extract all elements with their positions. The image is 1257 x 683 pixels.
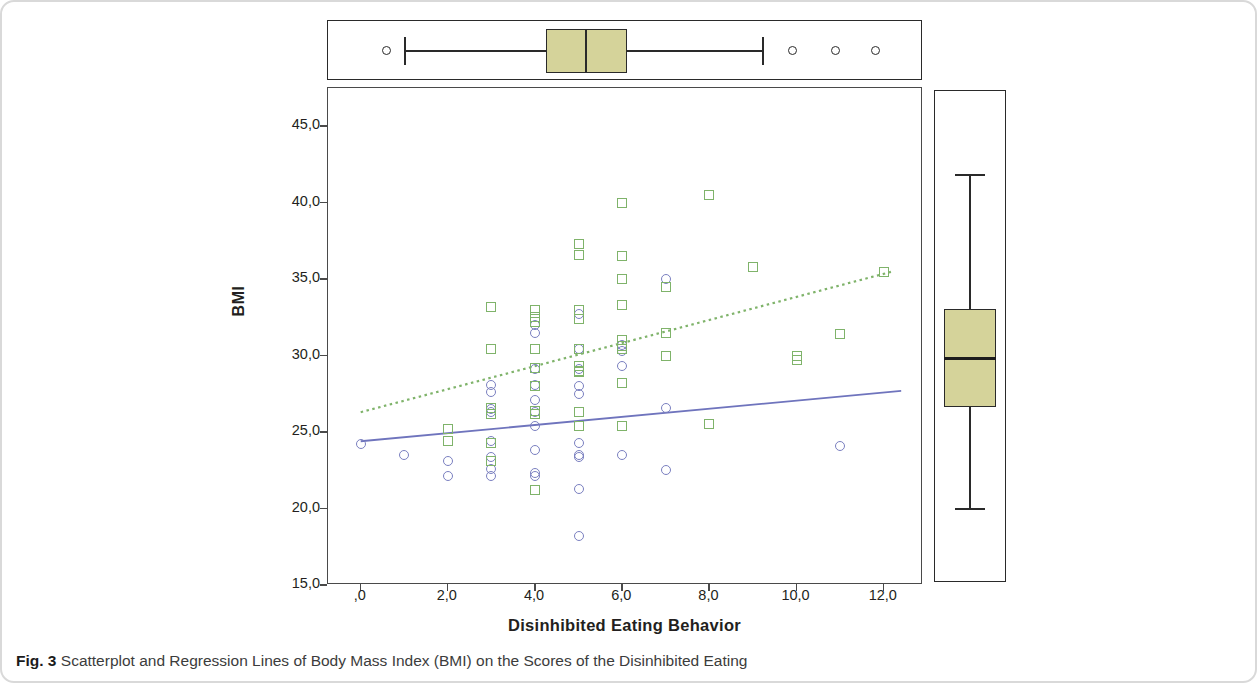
y-axis-tick-label: 15,0 (292, 575, 320, 591)
data-point (574, 239, 584, 249)
regression-line (361, 391, 902, 441)
boxplot-outlier (788, 46, 797, 55)
data-point (574, 421, 584, 431)
data-point (486, 344, 496, 354)
data-point (530, 409, 540, 419)
data-point (704, 419, 714, 429)
y-axis-tick-mark (320, 584, 327, 586)
boxplot-whisker-low (969, 407, 971, 508)
y-axis-tick-label: 40,0 (292, 193, 320, 209)
plot-inner (328, 88, 921, 583)
data-point (530, 421, 540, 431)
x-axis-tick-label: 2,0 (437, 587, 457, 603)
x-axis-tick-label: 8,0 (698, 587, 718, 603)
data-point (617, 344, 627, 354)
data-point (574, 389, 584, 399)
data-point (574, 314, 584, 324)
data-point (574, 367, 584, 377)
data-point (486, 438, 496, 448)
data-point (617, 421, 627, 431)
y-axis-tick-mark (320, 355, 327, 357)
boxplot-median-line (944, 357, 996, 360)
data-point (617, 378, 627, 388)
boxplot-whisker-high (969, 174, 971, 309)
figure-caption-text: Scatterplot and Regression Lines of Body… (56, 652, 747, 669)
x-axis-tick-labels: ,02,04,06,08,010,012,0 (327, 587, 922, 611)
data-point (835, 441, 845, 451)
data-point (574, 452, 584, 462)
data-point (661, 351, 671, 361)
y-axis-tick-label: 45,0 (292, 116, 320, 132)
scatter-plot-area: European Kiribati European Kiribati (327, 87, 922, 584)
data-point (704, 190, 714, 200)
data-point (748, 262, 758, 272)
data-point (574, 250, 584, 260)
x-axis-label: Disinhibited Eating Behavior (327, 616, 922, 635)
x-axis-tick-label: ,0 (354, 587, 366, 603)
y-axis-tick-mark (320, 508, 327, 510)
data-point (617, 251, 627, 261)
figure-panel: BMI 15,020,025,030,035,040,045,0 Europea… (0, 0, 1257, 683)
y-axis-tick-label: 20,0 (292, 499, 320, 515)
x-axis-tick-label: 6,0 (611, 587, 631, 603)
boxplot-whisker-cap-high (955, 174, 985, 176)
data-point (574, 484, 584, 494)
y-axis-tick-mark (320, 431, 327, 433)
x-axis-tick-label: 10,0 (781, 587, 809, 603)
data-point (486, 302, 496, 312)
y-axis-tick-label: 25,0 (292, 422, 320, 438)
data-point (661, 403, 671, 413)
data-point (574, 438, 584, 448)
data-point (835, 329, 845, 339)
figure-number: Fig. 3 (16, 652, 56, 669)
data-point (530, 485, 540, 495)
top-horizontal-boxplot (327, 20, 922, 80)
boxplot-whisker-low (404, 50, 546, 52)
data-point (617, 198, 627, 208)
data-point (443, 436, 453, 446)
data-point (356, 439, 366, 449)
y-axis-label: BMI (230, 286, 248, 317)
data-point (530, 363, 540, 373)
boxplot-outlier (831, 46, 840, 55)
boxplot-whisker-cap-high (762, 37, 764, 65)
data-point (443, 456, 453, 466)
data-point (530, 381, 540, 391)
data-point (574, 344, 584, 354)
data-point (617, 274, 627, 284)
data-point (443, 424, 453, 434)
data-point (486, 409, 496, 419)
y-axis-tick-mark (320, 202, 327, 204)
y-axis-tick-label: 30,0 (292, 346, 320, 362)
data-point (574, 407, 584, 417)
boxplot-outlier (871, 46, 880, 55)
data-point (530, 328, 540, 338)
x-axis-tick-label: 12,0 (869, 587, 897, 603)
figure-caption: Fig. 3 Scatterplot and Regression Lines … (16, 652, 1196, 670)
data-point (661, 328, 671, 338)
data-point (617, 300, 627, 310)
x-axis-tick-label: 4,0 (524, 587, 544, 603)
data-point (879, 267, 889, 277)
boxplot-outlier (382, 46, 391, 55)
right-vertical-boxplot (934, 90, 1006, 582)
y-axis-tick-mark (320, 125, 327, 127)
data-point (574, 531, 584, 541)
boxplot-whisker-cap-low (955, 508, 985, 510)
data-point (530, 395, 540, 405)
data-point (486, 456, 496, 466)
data-point (530, 317, 540, 327)
boxplot-whisker-cap-low (404, 37, 406, 65)
y-axis-tick-labels: 15,020,025,030,035,040,045,0 (252, 87, 320, 584)
boxplot-whisker-high (627, 50, 762, 52)
y-axis-tick-mark (320, 278, 327, 280)
y-axis-tick-label: 35,0 (292, 269, 320, 285)
data-point (530, 344, 540, 354)
boxplot-median-line (585, 29, 587, 73)
data-point (792, 355, 802, 365)
data-point (661, 282, 671, 292)
